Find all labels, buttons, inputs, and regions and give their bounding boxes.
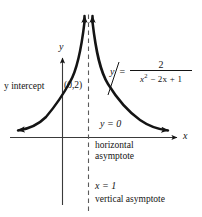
- equation-numerator: 2: [157, 59, 166, 70]
- horizontal-asymptote-caption: horizontal asymptote: [95, 140, 134, 161]
- y-intercept-label: y intercept: [4, 81, 44, 92]
- equation-lhs: y: [110, 66, 114, 77]
- equation-equals-sign: =: [119, 66, 125, 77]
- y-intercept-coordinate-label: (0,2): [64, 80, 82, 91]
- horizontal-asymptote-caption-line2: asymptote: [95, 151, 134, 162]
- y-axis-label: y: [59, 41, 63, 52]
- denominator-remainder: − 2x + 1: [150, 74, 182, 84]
- horizontal-asymptote-caption-line1: horizontal: [95, 140, 134, 151]
- denominator-exponent: 2: [144, 72, 147, 79]
- curve-left-branch: [18, 16, 85, 130]
- equation-fraction: 2 x2 − 2x + 1: [130, 59, 192, 84]
- horizontal-asymptote-equation: y = 0: [100, 118, 121, 129]
- vertical-asymptote-caption: vertical asymptote: [95, 194, 165, 205]
- equation-denominator: x2 − 2x + 1: [138, 71, 184, 84]
- rational-function-graph-figure: y x y intercept (0,2) y = 2 x2 − 2x + 1 …: [0, 0, 202, 217]
- function-equation: y = 2 x2 − 2x + 1: [110, 59, 192, 84]
- vertical-asymptote-equation: x = 1: [95, 180, 116, 191]
- x-axis-label: x: [183, 130, 187, 141]
